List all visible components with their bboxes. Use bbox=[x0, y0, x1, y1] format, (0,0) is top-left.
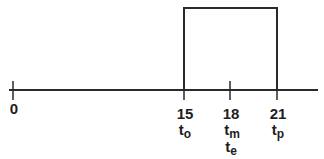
symbol-t-p: tp bbox=[272, 122, 284, 140]
tick-label-15: 15 bbox=[177, 106, 194, 121]
tick-label-21: 21 bbox=[270, 106, 287, 121]
tick-label-0: 0 bbox=[10, 101, 18, 116]
symbol-t-e: te bbox=[225, 139, 237, 157]
tick-label-18: 18 bbox=[223, 106, 240, 121]
pulse-rectangle bbox=[184, 8, 277, 90]
symbol-t-o: to bbox=[179, 122, 191, 140]
